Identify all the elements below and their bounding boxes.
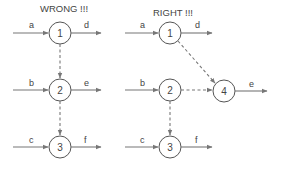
node-2-label: 2 [167, 85, 173, 96]
node-4-label: 4 [221, 86, 227, 97]
activity-label-f: f [84, 135, 87, 145]
activity-label-f: f [195, 135, 198, 145]
activity-label-e: e [249, 79, 254, 89]
node-3-label: 3 [167, 142, 173, 153]
wrong-title: WRONG !!! [40, 3, 88, 14]
node-1-label: 1 [57, 28, 63, 39]
dummy-arrow-1-4 [178, 41, 215, 83]
node-1-label: 1 [167, 28, 173, 39]
network-diagrams: WRONG !!! a 1 d b 2 e c 3 f RIGHT !!! a … [0, 0, 284, 171]
right-diagram: RIGHT !!! a 1 d b 2 4 e c 3 f [125, 7, 267, 158]
activity-label-c: c [29, 135, 34, 145]
wrong-diagram: WRONG !!! a 1 d b 2 e c 3 f [13, 3, 101, 158]
activity-label-a: a [140, 20, 145, 30]
activity-label-d: d [84, 20, 89, 30]
node-2-label: 2 [57, 85, 63, 96]
activity-label-b: b [140, 78, 145, 88]
activity-label-d: d [195, 20, 200, 30]
activity-label-b: b [29, 78, 34, 88]
right-title: RIGHT !!! [153, 7, 193, 18]
activity-label-c: c [140, 135, 145, 145]
activity-label-a: a [29, 20, 34, 30]
activity-label-e: e [84, 78, 89, 88]
node-3-label: 3 [57, 142, 63, 153]
